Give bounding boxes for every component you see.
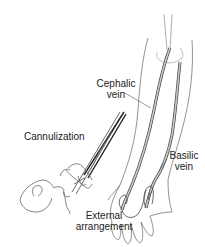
external-arrangement-label: External arrangement	[64, 210, 144, 232]
external-label-line2: arrangement	[64, 221, 144, 232]
basilic-vein-label: Basilic vein	[164, 150, 204, 172]
basilic-label-line2: vein	[164, 161, 204, 172]
cannulization-label: Cannulization	[24, 131, 85, 142]
cephalic-vein-label: Cephalic vein	[96, 78, 136, 100]
cephalic-vein	[122, 48, 170, 210]
cephalic-label-line2: vein	[96, 89, 136, 100]
left-hand	[20, 180, 70, 214]
right-hand	[60, 164, 92, 188]
basilic-label-line1: Basilic	[164, 150, 204, 161]
external-label-line1: External	[64, 210, 144, 221]
cephalic-label-line1: Cephalic	[96, 78, 136, 89]
